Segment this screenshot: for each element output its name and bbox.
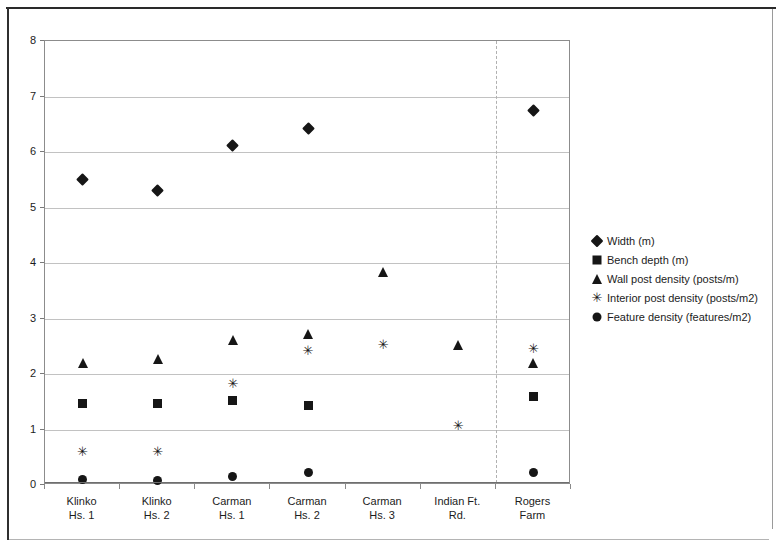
legend-item-4[interactable]: Feature density (features/m2) [590, 308, 776, 326]
legend-label-3: Interior post density (posts/m2) [607, 291, 758, 305]
y-axis-tick-label-1: 1 [6, 423, 36, 434]
chart-legend: Width (m)Bench depth (m)Wall post densit… [590, 232, 776, 327]
x-axis-tick-mark-4 [345, 484, 346, 489]
x-axis-tick-mark-2 [194, 484, 195, 489]
x-axis-tick-mark-1 [119, 484, 120, 489]
legend-item-2[interactable]: Wall post density (posts/m) [590, 270, 776, 288]
data-point-triangle-3 [302, 328, 314, 340]
legend-label-4: Feature density (features/m2) [607, 310, 751, 324]
data-point-circle-3 [302, 467, 314, 479]
data-point-diamond-6 [527, 104, 539, 116]
gridline-3 [45, 319, 569, 320]
scanned-page: 012345678 ✳✳✳✳✳✳✳ KlinkoHs. 1KlinkoHs. 2… [0, 0, 782, 547]
data-point-diamond-2 [227, 139, 239, 151]
plot-area: ✳✳✳✳✳✳✳ [44, 40, 570, 484]
scatter-chart: 012345678 ✳✳✳✳✳✳✳ KlinkoHs. 1KlinkoHs. 2… [0, 0, 782, 547]
data-point-ex-4: ✳ [377, 339, 389, 351]
y-axis-tick-label-6: 6 [6, 146, 36, 157]
data-point-square-1 [152, 397, 164, 409]
x-axis-category-label-line1: Rogers [488, 494, 576, 508]
data-point-ex-6: ✳ [527, 343, 539, 355]
data-point-square-0 [77, 397, 89, 409]
legend-marker-ex-icon: ✳ [590, 291, 604, 305]
gridline-2 [45, 374, 569, 375]
data-point-triangle-2 [227, 334, 239, 346]
legend-marker-diamond-icon [590, 234, 604, 248]
y-axis-tick-label-7: 7 [6, 90, 36, 101]
x-axis-category-label-line2: Farm [488, 508, 576, 522]
data-point-triangle-5 [452, 339, 464, 351]
data-point-triangle-4 [377, 266, 389, 278]
y-axis-tick-label-2: 2 [6, 368, 36, 379]
data-point-ex-1: ✳ [152, 446, 164, 458]
data-point-circle-2 [227, 471, 239, 483]
x-axis-tick-mark-6 [495, 484, 496, 489]
x-axis-category-label-6: RogersFarm [488, 494, 576, 522]
data-point-diamond-1 [152, 185, 164, 197]
data-point-ex-3: ✳ [302, 345, 314, 357]
data-point-circle-0 [77, 473, 89, 485]
y-axis-tick-label-0: 0 [6, 479, 36, 490]
y-axis-tick-label-8: 8 [6, 35, 36, 46]
legend-item-3[interactable]: ✳Interior post density (posts/m2) [590, 289, 776, 307]
data-point-square-6 [527, 390, 539, 402]
data-point-square-3 [302, 400, 314, 412]
legend-label-1: Bench depth (m) [607, 253, 688, 267]
data-point-triangle-0 [77, 357, 89, 369]
legend-item-0[interactable]: Width (m) [590, 232, 776, 250]
y-axis-tick-label-3: 3 [6, 312, 36, 323]
legend-item-1[interactable]: Bench depth (m) [590, 251, 776, 269]
gridline-5 [45, 208, 569, 209]
x-axis-tick-mark-7 [570, 484, 571, 489]
data-point-diamond-0 [77, 174, 89, 186]
legend-label-2: Wall post density (posts/m) [607, 272, 739, 286]
data-point-square-2 [227, 395, 239, 407]
data-point-ex-2: ✳ [227, 378, 239, 390]
data-point-circle-1 [152, 475, 164, 487]
data-point-circle-6 [527, 467, 539, 479]
legend-marker-circle-icon [590, 310, 604, 324]
legend-marker-square-icon [590, 253, 604, 267]
data-point-triangle-6 [527, 357, 539, 369]
category-separator [496, 41, 497, 483]
gridline-6 [45, 152, 569, 153]
data-point-ex-0: ✳ [77, 446, 89, 458]
gridline-4 [45, 263, 569, 264]
x-axis-tick-mark-0 [44, 484, 45, 489]
data-point-diamond-3 [302, 122, 314, 134]
legend-marker-triangle-icon [590, 272, 604, 286]
legend-label-0: Width (m) [607, 234, 655, 248]
x-axis-line [45, 482, 569, 483]
gridline-7 [45, 97, 569, 98]
data-point-triangle-1 [152, 353, 164, 365]
x-axis-tick-mark-3 [269, 484, 270, 489]
y-axis-tick-label-5: 5 [6, 201, 36, 212]
y-axis-tick-label-4: 4 [6, 257, 36, 268]
x-axis-tick-mark-5 [420, 484, 421, 489]
data-point-ex-5: ✳ [452, 420, 464, 432]
gridline-1 [45, 430, 569, 431]
